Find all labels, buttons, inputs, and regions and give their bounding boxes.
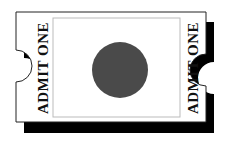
admit-one-ticket: ADMIT ONE ADMIT ONE — [0, 0, 239, 145]
ticket-right-label: ADMIT ONE — [185, 22, 201, 114]
ticket-center-circle — [92, 42, 148, 98]
ticket-left-label: ADMIT ONE — [35, 22, 51, 114]
